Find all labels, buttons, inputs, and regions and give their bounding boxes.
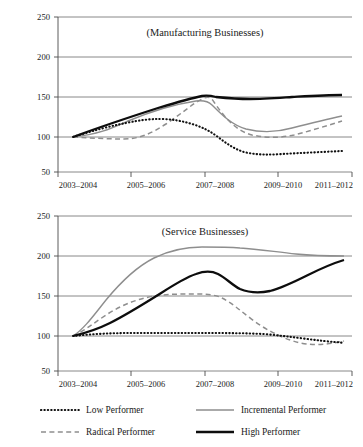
xtick-label-1: 2003–2004 [59,181,98,190]
xtick-label-3: 2007–2008 [196,380,235,389]
ytick-label-200: 200 [37,251,50,261]
manufacturing-gridlines [58,17,352,172]
ytick-label-250: 250 [37,211,50,221]
ytick-label-50: 50 [41,167,50,177]
legend-item-low-performer: Low Performer [40,399,195,421]
xtick-label-2: 2005–2006 [127,181,166,190]
legend-swatch-solid-thick-icon [195,427,235,437]
ytick-label-150: 150 [37,291,50,301]
xtick-label-3: 2007–2008 [196,181,235,190]
series-line-radical [73,294,344,344]
xtick-label-1: 2003–2004 [59,380,98,389]
manufacturing-ytick-labels: 250 200 150 100 50 [37,12,50,177]
series-line-high [73,260,344,336]
chart-legend: Low Performer Incremental Performer Radi… [0,399,363,447]
legend-label-radical-performer: Radical Performer [86,427,155,437]
xtick-label-5: 2011–2012 [315,380,353,389]
manufacturing-panel-title: (Manufacturing Businesses) [147,27,264,39]
ytick-label-50: 50 [41,366,50,376]
xtick-label-2: 2005–2006 [127,380,166,389]
legend-label-low-performer: Low Performer [86,405,144,415]
manufacturing-xtick-labels: 2003–2004 2005–2006 2007–2008 2009–2010 … [59,181,353,190]
manufacturing-series-group [73,95,342,155]
service-gridlines [58,216,352,371]
legend-item-incremental-performer: Incremental Performer [195,399,363,421]
xtick-label-4: 2009–2010 [264,181,303,190]
service-panel-title: (Service Businesses) [162,226,248,238]
chart-panel-service: (Service Businesses) 250 200 150 100 50 … [0,199,363,399]
series-line-low [73,333,344,343]
legend-swatch-dotted-icon [40,405,80,415]
series-line-incremental [73,247,344,336]
service-xtick-labels: 2003–2004 2005–2006 2007–2008 2009–2010 … [59,380,353,389]
legend-label-high-performer: High Performer [241,427,300,437]
chart-panel-manufacturing: (Manufacturing Businesses) 250 200 150 1… [0,0,363,200]
service-ytick-labels: 250 200 150 100 50 [37,211,50,376]
legend-swatch-dashed-icon [40,427,80,437]
service-chart-svg: (Service Businesses) 250 200 150 100 50 … [0,199,363,399]
ytick-label-100: 100 [37,132,50,142]
ytick-label-250: 250 [37,12,50,22]
manufacturing-chart-svg: (Manufacturing Businesses) 250 200 150 1… [0,0,363,200]
legend-item-radical-performer: Radical Performer [40,421,195,443]
xtick-label-4: 2009–2010 [264,380,303,389]
series-line-radical [73,97,342,139]
ytick-label-100: 100 [37,331,50,341]
xtick-label-5: 2011–2012 [315,181,353,190]
legend-item-high-performer: High Performer [195,421,363,443]
legend-label-incremental-performer: Incremental Performer [241,405,326,415]
ytick-label-150: 150 [37,92,50,102]
legend-swatch-solid-thin-icon [195,405,235,415]
figure-two-panel-line-charts: (Manufacturing Businesses) 250 200 150 1… [0,0,363,447]
series-line-incremental [73,101,342,137]
ytick-label-200: 200 [37,52,50,62]
